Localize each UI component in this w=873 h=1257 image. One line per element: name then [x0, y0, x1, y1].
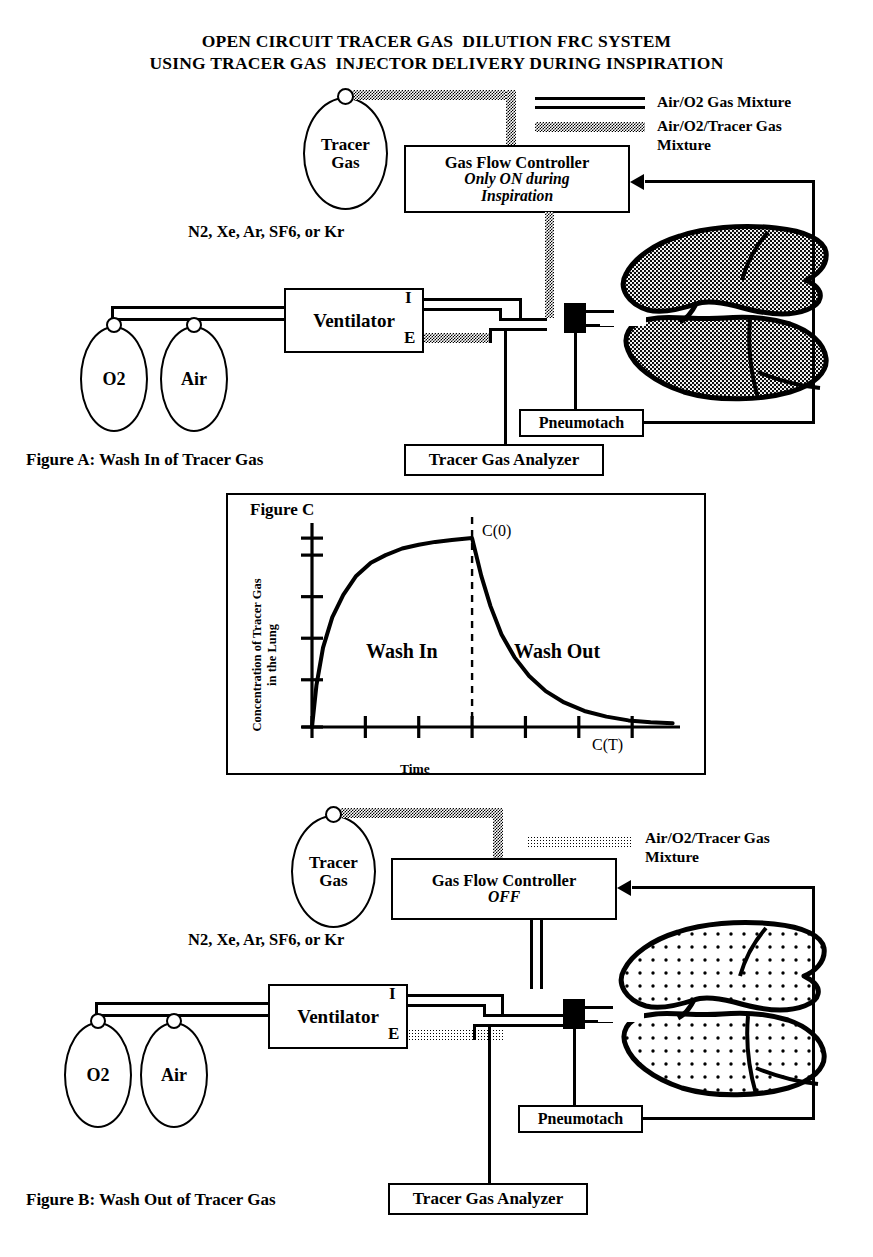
lungs-a	[600, 222, 870, 402]
pneumotach-label: Pneumotach	[539, 415, 624, 432]
inspiratory-limb-a-run-top	[499, 318, 547, 321]
tracer-gas-analyzer-b[interactable]: Tracer Gas Analyzer	[388, 1183, 588, 1215]
figure-c-plot	[280, 505, 690, 760]
title-line-1: OPEN CIRCUIT TRACER GAS DILUTION FRC SYS…	[0, 30, 873, 52]
o2-valve-a	[106, 317, 122, 333]
inspiratory-limb-a-top-drop	[519, 298, 522, 320]
feedback-a-return	[645, 180, 815, 183]
gas-manifold-a-top	[111, 306, 286, 309]
ventilator-a-port-e: E	[404, 328, 415, 348]
legend-a-line-1-upper	[535, 97, 645, 100]
airway-connector-b	[563, 999, 585, 1029]
legend-a-label-1: Air/O2 Gas Mixture	[657, 92, 791, 111]
feedback-b-vertical	[812, 886, 815, 1120]
o2-cylinder-a: O2	[80, 326, 148, 432]
pneumotach-b-lead	[573, 1028, 576, 1110]
analyzer-b-lead	[488, 1026, 491, 1186]
inspiratory-limb-b-top	[408, 994, 504, 997]
ventilator-b[interactable]: Ventilator	[268, 984, 408, 1049]
ventilator-a[interactable]: Ventilator	[284, 288, 424, 353]
feedback-b-arrowhead	[617, 880, 631, 896]
tracer-gas-list-a: N2, Xe, Ar, SF6, or Kr	[188, 222, 344, 242]
page-title: OPEN CIRCUIT TRACER GAS DILUTION FRC SYS…	[0, 30, 873, 74]
figure-c-x-axis-label: Time	[400, 761, 430, 777]
legend-b-label-1: Air/O2/Tracer Gas Mixture	[645, 828, 770, 866]
tracer-injector-pipe-b-left	[530, 919, 533, 989]
tracer-supply-pipe-a-horizontal	[352, 90, 516, 100]
tracer-gas-cylinder-a: Tracer Gas	[303, 97, 388, 210]
feedback-a-horizontal	[644, 421, 815, 424]
legend-a-label-2: Air/O2/Tracer Gas Mixture	[657, 116, 782, 154]
figure-c-y-axis-label: Concentration of Tracer Gas in the Lung	[250, 550, 280, 760]
feedback-b-return	[632, 886, 815, 889]
feedback-a-arrowhead	[630, 174, 644, 190]
figure-b-caption: Figure B: Wash Out of Tracer Gas	[26, 1190, 276, 1210]
tracer-gas-valve-b	[325, 806, 342, 823]
analyzer-a-lead	[504, 330, 507, 448]
analyzer-label: Tracer Gas Analyzer	[429, 451, 579, 469]
inspiratory-limb-b-bottom	[408, 1004, 486, 1007]
tracer-injector-pipe-b-right	[540, 919, 543, 989]
expiratory-limb-b-riser	[473, 1024, 476, 1040]
o2-cylinder-label: O2	[102, 370, 125, 389]
ventilator-label: Ventilator	[297, 1007, 379, 1027]
analyzer-label: Tracer Gas Analyzer	[413, 1190, 563, 1208]
legend-a-line-1-lower	[535, 106, 645, 109]
expiratory-limb-a	[424, 333, 492, 343]
air-cylinder-label: Air	[181, 370, 207, 389]
gas-manifold-b-bottom	[95, 1014, 273, 1017]
tracer-gas-analyzer-a[interactable]: Tracer Gas Analyzer	[404, 444, 604, 476]
pneumotach-a-lead	[574, 332, 577, 414]
o2-cylinder-label: O2	[86, 1066, 109, 1085]
ventilator-a-port-i: I	[405, 288, 412, 308]
diagram-canvas: OPEN CIRCUIT TRACER GAS DILUTION FRC SYS…	[0, 0, 873, 1257]
inspiratory-limb-a-bottom	[424, 308, 502, 311]
gas-manifold-b-top	[95, 1002, 273, 1005]
tracer-supply-pipe-b-horizontal	[340, 808, 503, 818]
tracer-gas-valve-a	[337, 88, 354, 105]
ventilator-b-port-i: I	[389, 984, 396, 1004]
title-line-2: USING TRACER GAS INJECTOR DELIVERY DURIN…	[0, 52, 873, 74]
air-cylinder-label: Air	[161, 1066, 187, 1085]
gas-flow-controller-b[interactable]: Gas Flow Controller OFF	[391, 858, 617, 920]
tracer-gas-cylinder-label: Tracer Gas	[321, 136, 370, 171]
airway-connector-a	[564, 303, 586, 333]
tracer-supply-pipe-b-vertical	[493, 808, 503, 860]
air-valve-b	[166, 1013, 182, 1029]
ventilator-b-port-e: E	[388, 1024, 399, 1044]
gas-flow-controller-title: Gas Flow Controller	[445, 154, 590, 171]
gas-flow-controller-state: OFF	[488, 889, 520, 905]
feedback-a-vertical	[812, 180, 815, 424]
pneumotach-a[interactable]: Pneumotach	[519, 409, 644, 437]
feedback-b-horizontal	[643, 1117, 815, 1120]
inspiratory-limb-b-run-top	[483, 1014, 563, 1017]
inspiratory-limb-a-run-bottom	[490, 328, 547, 331]
o2-cylinder-b: O2	[64, 1022, 132, 1128]
gas-flow-controller-a[interactable]: Gas Flow Controller Only ON during Inspi…	[404, 145, 630, 213]
ventilator-label: Ventilator	[313, 311, 395, 331]
figure-a-caption: Figure A: Wash In of Tracer Gas	[26, 450, 263, 470]
air-cylinder-b: Air	[140, 1022, 208, 1128]
legend-a-swatch-2	[535, 122, 645, 132]
expiratory-limb-a-riser	[489, 328, 492, 343]
gas-flow-controller-title: Gas Flow Controller	[432, 872, 577, 889]
legend-b-swatch-1	[527, 836, 633, 847]
pneumotach-label: Pneumotach	[538, 1111, 623, 1128]
inspiratory-limb-a-top	[424, 298, 522, 301]
pneumotach-b[interactable]: Pneumotach	[518, 1105, 643, 1133]
air-valve-a	[186, 317, 202, 333]
o2-valve-b	[90, 1013, 106, 1029]
inspiratory-limb-b-top-drop	[501, 994, 504, 1016]
tracer-gas-list-b: N2, Xe, Ar, SF6, or Kr	[188, 930, 344, 950]
gas-flow-controller-state: Only ON during Inspiration	[464, 171, 569, 204]
lungs-b	[598, 918, 868, 1098]
tracer-supply-pipe-a-vertical	[506, 90, 516, 147]
air-cylinder-a: Air	[160, 326, 228, 432]
tracer-injector-pipe-a	[545, 212, 554, 318]
tracer-gas-cylinder-b: Tracer Gas	[291, 815, 376, 928]
tracer-gas-cylinder-label: Tracer Gas	[309, 854, 358, 889]
